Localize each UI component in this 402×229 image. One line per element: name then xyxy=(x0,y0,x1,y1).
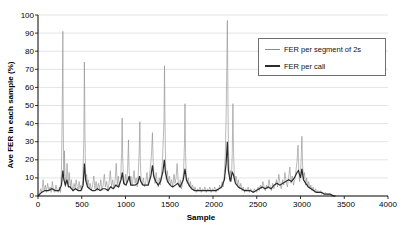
plot-area xyxy=(0,0,402,229)
legend-line-icon-thin xyxy=(265,49,280,50)
legend: FER per segment of 2s FER per call xyxy=(258,38,386,76)
legend-item-fer-per-segment: FER per segment of 2s xyxy=(265,44,361,54)
legend-line-icon-thick xyxy=(265,65,280,67)
legend-label-0: FER per segment of 2s xyxy=(284,45,361,54)
series-line-1 xyxy=(38,142,336,196)
legend-item-fer-per-call: FER per call xyxy=(265,61,325,71)
legend-label-1: FER per call xyxy=(284,62,325,71)
chart-container: Ave FER in each sample (%) Sample 100 90… xyxy=(0,0,402,229)
